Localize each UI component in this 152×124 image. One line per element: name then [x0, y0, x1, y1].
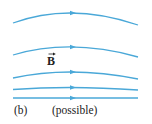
arrow-right-icon [70, 85, 76, 89]
caption-label: (possible) [52, 104, 97, 117]
arrow-right-icon [70, 11, 76, 15]
arrow-right-icon [70, 45, 76, 49]
field-lines [13, 13, 138, 98]
arrow-right-icon [70, 96, 76, 100]
field-line [13, 72, 138, 79]
direction-arrows [70, 11, 76, 100]
field-line [13, 87, 138, 90]
arrow-right-icon [70, 70, 76, 74]
field-symbol-label: B [47, 55, 55, 67]
field-line [13, 47, 138, 57]
panel-label: (b) [14, 104, 27, 117]
field-line [13, 13, 138, 25]
